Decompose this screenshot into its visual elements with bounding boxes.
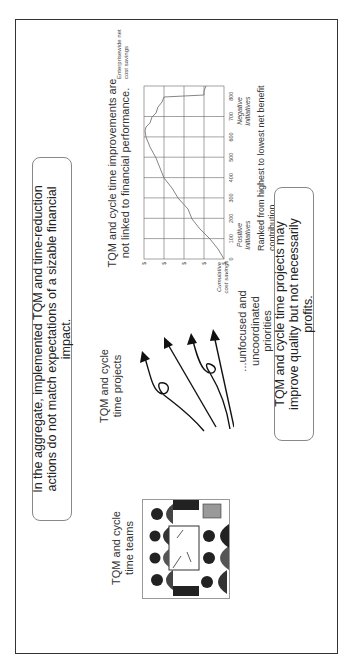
x-tick: 800 [228, 92, 234, 101]
cumulative-savings-chart: $ $ $ $ $ 0 100 200 300 400 500 600 700 … [142, 58, 242, 283]
enterprise-savings-label: Enterprisewide net cost savings [116, 29, 130, 79]
bottom-callout-box: TQM and cycle time projects may improve … [274, 187, 314, 441]
top-callout-box: In the aggregate, implemented TQM and ti… [32, 157, 72, 521]
x-tick: 500 [228, 153, 234, 162]
projects-label: TQM and cycle time projects [98, 341, 123, 431]
y-tick: $ [201, 262, 207, 265]
meeting-people-icon [143, 499, 230, 598]
chart-heading: TQM and cycle time improvements are not … [106, 75, 131, 271]
y-tick: $ [142, 262, 147, 265]
positive-initiatives-label: Positive initiatives [236, 215, 252, 255]
bottom-callout-text: TQM and cycle time projects may improve … [273, 188, 315, 440]
y-axis-label: Cumulative cost savings [216, 257, 230, 297]
x-tick: 400 [228, 173, 234, 182]
team-meeting-picture [142, 499, 230, 599]
negative-initiatives-label: Negative initiatives [236, 89, 252, 133]
x-tick: 700 [228, 112, 234, 121]
slide-frame: In the aggregate, implemented TQM and ti… [15, 19, 338, 654]
teams-label: TQM and cycle time teams [110, 503, 135, 593]
top-callout-text: In the aggregate, implemented TQM and ti… [31, 158, 73, 520]
wandering-arrows-graphic [134, 325, 234, 433]
x-tick: 300 [228, 193, 234, 202]
x-tick: 200 [228, 214, 234, 223]
x-tick: 100 [228, 234, 234, 243]
y-tick: $ [181, 262, 187, 265]
y-tick: $ [161, 262, 167, 265]
x-tick: 600 [228, 132, 234, 141]
priorities-label: ...unfocused and uncoordinated prioritie… [236, 279, 274, 383]
line-chart: $ $ $ $ $ 0 100 200 300 400 500 600 700 … [142, 58, 242, 283]
wandering-arrows-icon [134, 325, 234, 433]
